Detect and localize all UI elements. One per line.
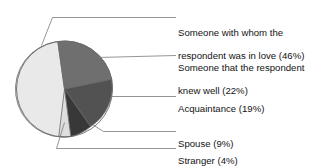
pie-labels: Someone with whom the respondent was in … [0,0,333,168]
pie-label-knew-well-line1: Someone that the respondent [178,62,304,73]
pie-chart-figure: Someone with whom the respondent was in … [0,0,333,168]
pie-label-love-line1: Someone with whom the [178,27,283,38]
pie-label-acquaintance-line1: Acquaintance (19%) [178,103,264,114]
pie-label-stranger: Stranger (4%) [178,143,330,166]
pie-label-knew-well: Someone that the respondent knew well (2… [178,50,330,96]
pie-label-acquaintance: Acquaintance (19%) [178,91,330,114]
pie-label-stranger-line1: Stranger (4%) [178,155,238,166]
